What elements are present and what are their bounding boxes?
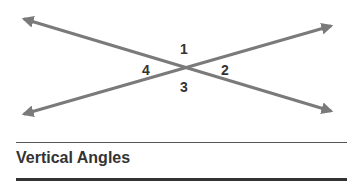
angle-label-2: 2 <box>221 62 229 78</box>
angle-label-3: 3 <box>180 79 188 95</box>
angle-label-1: 1 <box>180 41 188 57</box>
vertical-angles-diagram <box>0 0 363 135</box>
bottom-divider <box>16 178 347 181</box>
line-b <box>24 26 331 114</box>
angle-label-4: 4 <box>142 62 150 78</box>
figure-title: Vertical Angles <box>16 149 130 167</box>
top-divider <box>16 142 347 143</box>
line-a <box>24 19 331 111</box>
